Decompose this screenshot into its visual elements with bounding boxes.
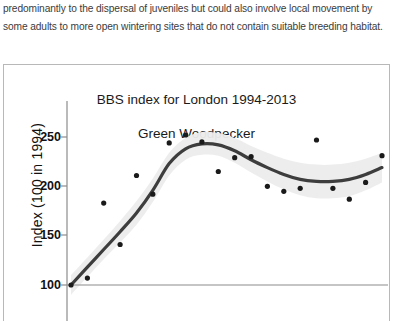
data-point xyxy=(298,186,303,191)
body-paragraph: predominantly to the dispersal of juveni… xyxy=(3,0,394,35)
data-point xyxy=(281,189,286,194)
y-axis-ticks xyxy=(61,137,67,285)
data-point xyxy=(101,201,106,206)
chart-plot-area xyxy=(4,65,390,321)
data-point xyxy=(347,197,352,202)
data-point xyxy=(265,184,270,189)
chart-figure-panel: BBS index for London 1994-2013 Green Woo… xyxy=(3,64,390,321)
paragraph-text: predominantly to the dispersal of juveni… xyxy=(3,0,394,35)
data-point xyxy=(167,140,172,145)
data-point xyxy=(199,139,204,144)
data-point xyxy=(314,137,319,142)
data-point xyxy=(249,154,254,159)
data-point xyxy=(379,153,384,158)
data-point xyxy=(330,186,335,191)
data-point xyxy=(232,155,237,160)
data-point xyxy=(85,276,90,281)
data-point xyxy=(68,282,73,287)
data-point xyxy=(118,242,123,247)
data-point xyxy=(150,192,155,197)
data-point xyxy=(363,180,368,185)
data-point xyxy=(216,169,221,174)
data-point xyxy=(134,173,139,178)
data-point xyxy=(183,132,188,137)
confidence-band xyxy=(71,132,382,295)
